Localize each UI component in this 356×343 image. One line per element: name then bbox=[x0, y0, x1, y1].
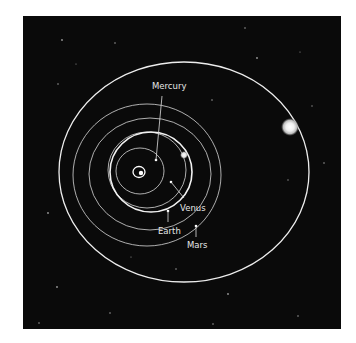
venus-label: Venus bbox=[180, 203, 206, 213]
venus-body bbox=[180, 151, 188, 159]
stars bbox=[38, 27, 325, 325]
sun-icon bbox=[133, 167, 145, 178]
solar-system-diagram: Mercury Venus Earth Mars bbox=[0, 0, 356, 343]
venus-leader bbox=[171, 182, 184, 198]
earth-orbit bbox=[110, 132, 192, 212]
earth-label: Earth bbox=[158, 226, 181, 236]
venus-orbit bbox=[108, 132, 186, 208]
comet-orbit bbox=[59, 62, 309, 282]
mercury-leader bbox=[156, 96, 162, 160]
mars-orbit bbox=[73, 104, 221, 246]
mercury-label: Mercury bbox=[152, 81, 186, 91]
mars-label: Mars bbox=[187, 240, 208, 250]
comet-body bbox=[281, 118, 299, 136]
